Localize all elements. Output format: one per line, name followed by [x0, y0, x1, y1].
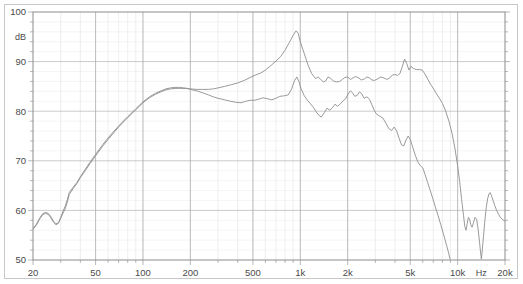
x-tick-label: 10k — [450, 267, 466, 278]
x-tick-label: 5k — [405, 267, 415, 278]
frequency-response-chart: 1009080706050 20501002005001k2k5k10k20k … — [0, 0, 523, 284]
y-axis-unit-label: dB — [15, 32, 26, 42]
x-tick-label: 20 — [28, 267, 39, 278]
x-axis-tick-labels: 20501002005001k2k5k10k20k — [28, 267, 513, 278]
y-tick-label: 70 — [15, 155, 26, 166]
y-tick-label: 50 — [15, 254, 26, 265]
x-tick-label: 1k — [295, 267, 305, 278]
x-tick-label: 100 — [135, 267, 151, 278]
y-tick-label: 100 — [10, 6, 26, 17]
x-axis-unit-label: Hz — [476, 268, 487, 278]
y-axis-tick-labels: 1009080706050 — [10, 6, 26, 265]
plot-background — [33, 12, 505, 260]
y-tick-label: 80 — [15, 106, 26, 117]
y-tick-label: 60 — [15, 205, 26, 216]
x-axis-tick-marks — [33, 260, 505, 265]
x-tick-label: 200 — [182, 267, 198, 278]
x-tick-label: 500 — [245, 267, 261, 278]
y-tick-label: 90 — [15, 56, 26, 67]
x-tick-label: 20k — [497, 267, 513, 278]
y-axis-tick-marks — [28, 12, 33, 260]
chart-canvas: 1009080706050 20501002005001k2k5k10k20k … — [0, 0, 523, 284]
x-tick-label: 50 — [90, 267, 101, 278]
x-tick-label: 2k — [343, 267, 353, 278]
y-axis-tick-marks-right — [505, 12, 510, 260]
